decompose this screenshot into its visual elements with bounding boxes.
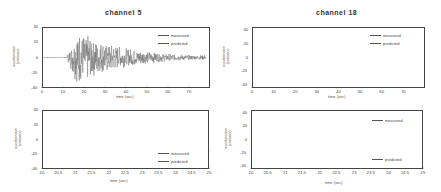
x-tick-label: 70 xyxy=(187,89,192,94)
x-tick-label: 10 xyxy=(271,89,276,94)
x-axis-label: time (sec) xyxy=(328,94,346,99)
y-tick-label: 0 xyxy=(246,55,248,60)
y-tick-label: -20 xyxy=(241,68,247,73)
x-tick-label: 20 xyxy=(249,170,254,175)
legend-predicted: predicted xyxy=(372,157,401,162)
x-tick-label: 24.5 xyxy=(401,170,409,175)
x-tick-label: 21.5 xyxy=(298,170,306,175)
legend-predicted: predicted xyxy=(158,159,187,164)
x-tick-label: 22.5 xyxy=(121,170,129,175)
y-axis-label-line1: acceleration xyxy=(222,46,226,66)
x-tick-label: 40 xyxy=(336,89,341,94)
x-tick-label: 40 xyxy=(124,89,129,94)
x-tick-label: 30 xyxy=(314,89,319,94)
y-tick-label: 40 xyxy=(33,107,38,112)
x-tick-label: 23.5 xyxy=(367,170,375,175)
y-tick-label: -40 xyxy=(240,163,246,168)
y-tick-label: 20 xyxy=(242,123,247,128)
x-tick-label: 20 xyxy=(40,170,45,175)
y-tick-label: 0 xyxy=(36,137,38,142)
y-tick-label: 40 xyxy=(33,24,38,29)
y-tick-label: 40 xyxy=(242,110,247,115)
x-tick-label: 24.5 xyxy=(188,170,196,175)
x-tick-label: 20 xyxy=(82,89,87,94)
y-axis-label-line2: (cm/sec²) xyxy=(226,49,230,65)
legend-predicted: predicted xyxy=(158,41,187,46)
legend-predicted: predicted xyxy=(370,41,399,46)
y-tick-label: -20 xyxy=(31,151,37,156)
legend-measured: measured xyxy=(372,118,403,123)
x-tick-label: 0 xyxy=(41,89,43,94)
x-tick-label: 10 xyxy=(61,89,66,94)
y-axis-label-line1: acceleration xyxy=(224,128,228,148)
x-tick-label: 22 xyxy=(106,170,111,175)
y-tick-label: -20 xyxy=(31,70,37,75)
y-axis-label: acceleration (cm/sec²) xyxy=(224,120,233,156)
y-tick-label: -20 xyxy=(240,150,246,155)
x-axis-label: time (sec) xyxy=(116,94,134,99)
x-tick-label: 60 xyxy=(379,89,384,94)
y-tick-label: 0 xyxy=(245,137,247,142)
x-tick-label: 0 xyxy=(251,89,253,94)
x-tick-label: 50 xyxy=(358,89,363,94)
x-tick-label: 25 xyxy=(207,170,212,175)
x-tick-label: 20.5 xyxy=(54,170,62,175)
y-tick-label: -40 xyxy=(31,85,37,90)
x-tick-label: 23.5 xyxy=(154,170,162,175)
y-tick-label: -40 xyxy=(31,166,37,171)
x-tick-label: 24 xyxy=(386,170,391,175)
y-tick-label: 40 xyxy=(243,27,248,32)
y-tick-label: -40 xyxy=(241,82,247,87)
x-tick-label: 21 xyxy=(73,170,78,175)
y-axis-label-line2: (cm/sec²) xyxy=(18,131,22,147)
x-tick-label: 60 xyxy=(166,89,171,94)
y-tick-label: 20 xyxy=(33,39,38,44)
x-tick-label: 20 xyxy=(293,89,298,94)
y-tick-label: 0 xyxy=(36,55,38,60)
legend-measured: measured xyxy=(158,33,189,38)
y-axis-label-line2: (cm/sec²) xyxy=(228,131,232,147)
legend-measured: measured xyxy=(158,151,189,156)
x-tick-label: 20.5 xyxy=(263,170,271,175)
x-tick-label: 21 xyxy=(283,170,288,175)
y-tick-label: 20 xyxy=(243,41,248,46)
x-tick-label: 24 xyxy=(173,170,178,175)
x-axis-label: time (sec) xyxy=(110,178,128,183)
x-tick-label: 30 xyxy=(103,89,108,94)
chart-title-channel-18: channel 18 xyxy=(316,9,357,16)
x-axis-label: time (sec) xyxy=(325,180,343,185)
x-tick-label: 22.5 xyxy=(332,170,340,175)
y-axis-label: acceleration (cm/sec²) xyxy=(222,38,231,74)
x-tick-label: 25 xyxy=(421,170,426,175)
y-axis-label: acceleration (cm/sec²) xyxy=(14,120,23,156)
y-tick-label: 20 xyxy=(33,122,38,127)
x-tick-label: 70 xyxy=(401,89,406,94)
y-axis-label-line1: acceleration xyxy=(14,128,18,148)
x-tick-label: 21.5 xyxy=(87,170,95,175)
x-tick-label: 23 xyxy=(140,170,145,175)
x-tick-label: 23 xyxy=(352,170,357,175)
x-tick-label: 50 xyxy=(145,89,150,94)
legend-measured: measured xyxy=(370,33,401,38)
x-tick-label: 22 xyxy=(317,170,322,175)
